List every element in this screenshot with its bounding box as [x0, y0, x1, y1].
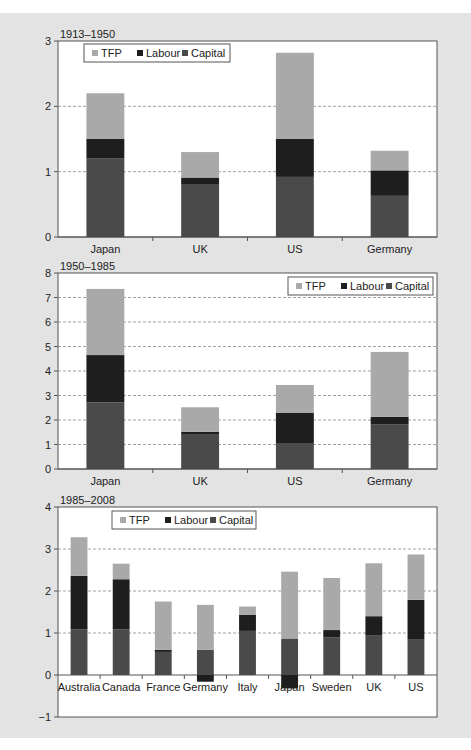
- bar-tfp: [371, 151, 409, 171]
- bar-capital: [181, 435, 219, 469]
- y-tick-label: 7: [45, 292, 51, 304]
- bar-labour: [323, 630, 340, 637]
- bar-capital: [86, 402, 124, 469]
- bar-capital: [323, 637, 340, 675]
- bar-tfp: [239, 607, 256, 615]
- legend-swatch-labour: [137, 50, 143, 56]
- legend-swatch-capital: [182, 50, 188, 56]
- legend-swatch-capital: [386, 283, 392, 289]
- bar-labour: [86, 355, 124, 402]
- bar-tfp: [408, 554, 425, 599]
- bar-capital: [86, 159, 124, 237]
- bar-labour: [113, 579, 130, 629]
- y-tick-label: 4: [45, 501, 51, 513]
- y-tick-label: 3: [45, 543, 51, 555]
- bar-tfp: [181, 152, 219, 177]
- x-tick-label: UK: [366, 681, 382, 693]
- legend-swatch-tfp: [296, 283, 302, 289]
- x-tick-label: UK: [192, 243, 208, 255]
- legend-swatch-labour: [165, 517, 171, 523]
- bar-labour: [181, 178, 219, 185]
- legend-label-tfp: TFP: [305, 280, 326, 292]
- legend-label-labour: Labour: [350, 280, 385, 292]
- chart-title: 1950–1985: [60, 260, 115, 272]
- bar-capital: [371, 424, 409, 469]
- bar-capital: [281, 638, 298, 675]
- legend-swatch-tfp: [120, 517, 126, 523]
- bar-labour: [155, 650, 172, 652]
- legend-label-capital: Capital: [191, 47, 225, 59]
- y-tick-label: 3: [45, 35, 51, 47]
- x-tick-label: Italy: [237, 681, 258, 693]
- bar-tfp: [197, 605, 214, 650]
- legend-label-tfp: TFP: [129, 514, 150, 526]
- x-tick-label: Australia: [58, 681, 102, 693]
- bar-tfp: [276, 385, 314, 413]
- x-tick-label: US: [287, 243, 302, 255]
- y-tick-label: 2: [45, 414, 51, 426]
- x-tick-label: Germany: [183, 681, 229, 693]
- bar-tfp: [365, 563, 382, 616]
- y-tick-label: 0: [45, 231, 51, 243]
- bar-labour: [86, 139, 124, 159]
- bar-capital: [239, 631, 256, 675]
- chart-title: 1985–2008: [60, 494, 115, 506]
- y-tick-label: −1: [38, 711, 51, 723]
- bar-tfp: [181, 407, 219, 432]
- x-tick-label: Canada: [102, 681, 141, 693]
- stacked-bar-charts: 1913–19500123JapanUKUSGermanyTFPLabourCa…: [0, 0, 471, 750]
- x-tick-label: France: [146, 681, 180, 693]
- chart-title: 1913–1950: [60, 28, 115, 40]
- bar-labour: [239, 615, 256, 631]
- bar-tfp: [155, 602, 172, 650]
- y-tick-label: 0: [45, 463, 51, 475]
- bar-labour: [276, 139, 314, 177]
- bar-tfp: [71, 537, 88, 576]
- bar-capital: [197, 650, 214, 675]
- y-tick-label: 4: [45, 365, 51, 377]
- legend-label-capital: Capital: [219, 514, 253, 526]
- bar-labour: [276, 413, 314, 444]
- x-tick-label: Sweden: [312, 681, 352, 693]
- bar-labour: [371, 170, 409, 195]
- legend-label-tfp: TFP: [101, 47, 122, 59]
- chart-2: 1985–2008−101234AustraliaCanadaFranceGer…: [38, 494, 437, 723]
- bar-tfp: [281, 572, 298, 639]
- y-tick-label: 8: [45, 267, 51, 279]
- y-tick-label: 2: [45, 100, 51, 112]
- bar-capital: [181, 185, 219, 237]
- y-tick-label: 3: [45, 390, 51, 402]
- chart-0: 1913–19500123JapanUKUSGermanyTFPLabourCa…: [45, 28, 437, 255]
- bar-capital: [155, 652, 172, 675]
- y-tick-label: 0: [45, 669, 51, 681]
- y-tick-label: 6: [45, 316, 51, 328]
- y-tick-label: 5: [45, 341, 51, 353]
- bar-capital: [408, 640, 425, 675]
- bar-labour: [181, 432, 219, 435]
- x-tick-label: US: [408, 681, 423, 693]
- bar-capital: [371, 196, 409, 237]
- x-tick-label: Japan: [275, 681, 305, 693]
- legend-swatch-labour: [341, 283, 347, 289]
- bar-labour: [408, 600, 425, 640]
- bar-capital: [113, 629, 130, 675]
- bar-capital: [276, 444, 314, 469]
- x-tick-label: Germany: [367, 475, 413, 487]
- bar-labour: [371, 417, 409, 424]
- legend-swatch-tfp: [92, 50, 98, 56]
- bar-labour: [365, 616, 382, 635]
- bar-labour: [71, 576, 88, 629]
- y-tick-label: 1: [45, 439, 51, 451]
- legend-label-labour: Labour: [174, 514, 209, 526]
- legend-label-capital: Capital: [395, 280, 429, 292]
- chart-1: 1950–1985012345678JapanUKUSGermanyTFPLab…: [45, 260, 437, 487]
- y-tick-label: 2: [45, 585, 51, 597]
- x-tick-label: Germany: [367, 243, 413, 255]
- legend-label-labour: Labour: [146, 47, 181, 59]
- bar-tfp: [113, 564, 130, 580]
- bar-tfp: [86, 93, 124, 139]
- bar-capital: [71, 629, 88, 675]
- bar-tfp: [276, 53, 314, 139]
- x-tick-label: Japan: [90, 475, 120, 487]
- y-tick-label: 1: [45, 166, 51, 178]
